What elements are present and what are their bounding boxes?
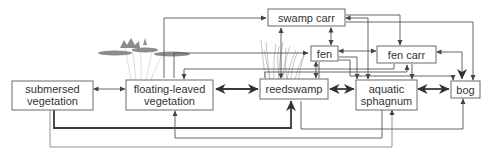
node-label: aquatic (369, 83, 405, 95)
node-bog: bog (451, 81, 480, 98)
node-aquatic-sphagnum: aquatic sphagnum (356, 80, 417, 110)
node-fen-carr: fen carr (377, 46, 436, 63)
node-label: vegetation (144, 95, 195, 107)
node-reedswamp: reedswamp (260, 79, 328, 99)
succession-diagram: submersed vegetation floating-leaved veg… (0, 0, 485, 155)
node-label: floating-leaved (134, 83, 206, 95)
edge-fencarr-bog (437, 52, 462, 79)
node-floating-leaved-vegetation: floating-leaved vegetation (126, 80, 213, 110)
node-label: sphagnum (361, 95, 412, 107)
node-label: fen carr (388, 49, 426, 61)
node-label: bog (456, 84, 474, 96)
edge-sphagnum-floating (175, 110, 382, 138)
node-label: reedswamp (266, 83, 323, 95)
water-lily-icon (98, 38, 190, 80)
node-label: fen (317, 48, 332, 60)
node-swamp-carr: swamp carr (268, 9, 345, 26)
edge-fencarr-floating (184, 64, 394, 79)
node-fen: fen (311, 46, 338, 61)
edge-swampcarr-fencarr (346, 15, 400, 45)
node-label: submersed (25, 83, 79, 95)
node-label: vegetation (27, 95, 78, 107)
node-submersed-vegetation: submersed vegetation (12, 81, 93, 110)
node-label: swamp carr (278, 12, 335, 24)
